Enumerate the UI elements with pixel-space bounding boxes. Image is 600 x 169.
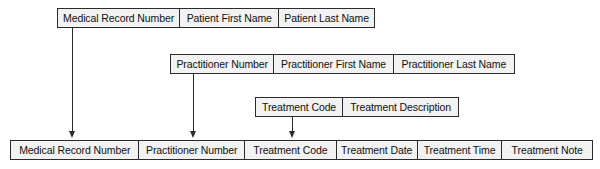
- schema-diagram: Medical Record Number Patient First Name…: [0, 0, 600, 169]
- connector-practitioner-number-stem: [193, 74, 194, 131]
- attribute-tr-practitioner-number[interactable]: Practitioner Number: [139, 141, 245, 159]
- relation-treatment-record[interactable]: Medical Record Number Practitioner Numbe…: [10, 140, 593, 160]
- attribute-tr-treatment-code[interactable]: Treatment Code: [245, 141, 337, 159]
- attribute-medical-record-number[interactable]: Medical Record Number: [58, 9, 180, 27]
- attribute-practitioner-last-name[interactable]: Practitioner Last Name: [394, 55, 514, 73]
- connector-treatment-code-arrowhead: [289, 131, 295, 138]
- attribute-practitioner-first-name[interactable]: Practitioner First Name: [274, 55, 393, 73]
- connector-medical-record-number-arrowhead: [69, 131, 75, 138]
- attribute-treatment-code[interactable]: Treatment Code: [256, 98, 343, 116]
- connector-medical-record-number-stem: [72, 27, 73, 131]
- attribute-tr-treatment-note[interactable]: Treatment Note: [502, 141, 592, 159]
- attribute-treatment-description[interactable]: Treatment Description: [343, 98, 458, 116]
- attribute-tr-treatment-date[interactable]: Treatment Date: [337, 141, 418, 159]
- relation-practitioner[interactable]: Practitioner Number Practitioner First N…: [170, 54, 515, 74]
- relation-treatment[interactable]: Treatment Code Treatment Description: [255, 97, 459, 117]
- attribute-patient-first-name[interactable]: Patient First Name: [180, 9, 279, 27]
- connector-treatment-code-stem: [292, 117, 293, 131]
- relation-patient[interactable]: Medical Record Number Patient First Name…: [57, 8, 375, 28]
- attribute-patient-last-name[interactable]: Patient Last Name: [279, 9, 374, 27]
- attribute-practitioner-number[interactable]: Practitioner Number: [171, 55, 274, 73]
- attribute-tr-medical-record-number[interactable]: Medical Record Number: [11, 141, 139, 159]
- attribute-tr-treatment-time[interactable]: Treatment Time: [418, 141, 503, 159]
- connector-practitioner-number-arrowhead: [190, 131, 196, 138]
